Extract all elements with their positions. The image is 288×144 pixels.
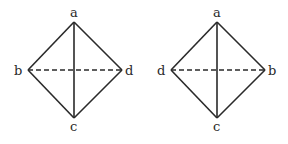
- label-left-top: a: [70, 6, 78, 19]
- edge-a-d: [171, 22, 217, 70]
- edge-b-c: [28, 70, 74, 118]
- label-left-right: d: [125, 64, 133, 77]
- right-diagram: [171, 22, 265, 118]
- edge-d-c: [74, 70, 122, 118]
- label-right-right: b: [268, 64, 276, 77]
- edge-b-c: [217, 70, 265, 118]
- label-right-bottom: c: [213, 120, 220, 133]
- label-right-left: d: [157, 64, 165, 77]
- label-left-bottom: c: [70, 120, 77, 133]
- diagram-canvas: [0, 0, 288, 144]
- edge-a-d: [74, 22, 122, 70]
- label-left-left: b: [14, 64, 22, 77]
- edge-a-b: [28, 22, 74, 70]
- label-right-top: a: [213, 6, 221, 19]
- left-diagram: [28, 22, 122, 118]
- edge-d-c: [171, 70, 217, 118]
- edge-a-b: [217, 22, 265, 70]
